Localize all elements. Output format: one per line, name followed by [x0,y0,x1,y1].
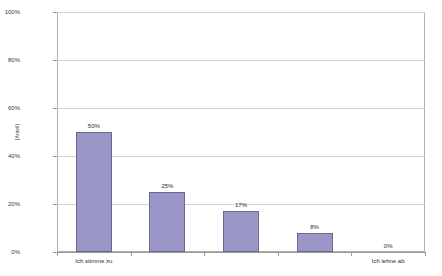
gridline [57,252,425,253]
bar-slot: 25% [131,12,205,252]
bar[interactable] [149,192,185,252]
x-tick-mark [204,252,205,256]
bar-slot: 8% [278,12,352,252]
bars-layer: 50%25%17%8%0% [57,12,425,252]
x-tick-mark [278,252,279,256]
y-axis-title: [Anteil] [14,112,20,152]
y-tick-label: 60% [0,105,20,111]
bar-slot: 17% [204,12,278,252]
bar-value-label: 8% [310,224,319,230]
x-tick-mark [57,252,58,256]
bar-slot: 50% [57,12,131,252]
bar-value-label: 0% [384,243,393,249]
bar[interactable] [76,132,112,252]
y-tick-label: 100% [0,9,20,15]
x-category-label: Ich lehne ab [372,258,405,264]
y-tick-label: 0% [0,249,20,255]
y-tick-label: 80% [0,57,20,63]
x-category-label: Ich stimme zu [75,258,112,264]
bar-slot: 0% [351,12,425,252]
bar[interactable] [223,211,259,252]
bar-value-label: 25% [161,183,173,189]
x-tick-mark [131,252,132,256]
bar-value-label: 17% [235,202,247,208]
bar[interactable] [297,233,333,252]
y-tick-label: 20% [0,201,20,207]
x-tick-mark [425,252,426,256]
bar-value-label: 50% [88,123,100,129]
y-tick-label: 40% [0,153,20,159]
bar-chart: [Anteil] 0%20%40%60%80%100% 50%25%17%8%0… [0,0,442,276]
x-tick-mark [351,252,352,256]
